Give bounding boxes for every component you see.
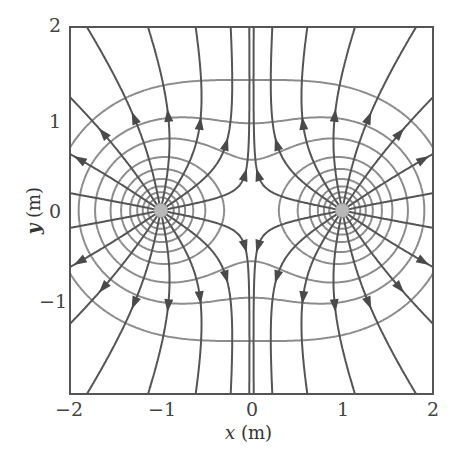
arrowhead-icon <box>362 112 371 126</box>
point-charge-1 <box>154 204 168 218</box>
arrowhead-icon <box>74 156 88 166</box>
y-tick-2: 2 <box>49 14 61 36</box>
x-label-unit: (m) <box>235 422 272 443</box>
y-tick-1: 1 <box>49 110 61 132</box>
y-label-unit: (m) <box>23 187 44 224</box>
arrowhead-icon <box>274 138 283 152</box>
arrowhead-icon <box>164 109 173 122</box>
field-lines <box>70 27 433 394</box>
arrowhead-icon <box>220 270 229 284</box>
arrowhead-icon <box>74 255 88 265</box>
arrowhead-icon <box>416 156 430 166</box>
arrowhead-icon <box>132 296 141 310</box>
arrowhead-icon <box>164 299 173 312</box>
arrowhead-icon <box>239 239 248 253</box>
x-tick-neg1: −1 <box>148 398 176 420</box>
point-charge-2 <box>335 204 349 218</box>
equipotential <box>143 192 361 229</box>
arrowhead-icon <box>362 296 371 310</box>
arrowhead-icon <box>239 168 248 182</box>
x-tick-neg2: −2 <box>55 398 83 420</box>
arrowhead-icon <box>220 138 229 152</box>
arrowhead-icon <box>416 255 430 265</box>
x-label-var: x <box>225 422 235 443</box>
equipotential <box>70 80 433 341</box>
x-axis-label: x (m) <box>225 422 272 443</box>
arrowhead-icon <box>274 270 283 284</box>
arrowhead-icon <box>256 168 265 182</box>
equipotential <box>95 139 408 283</box>
x-tick-2: 2 <box>427 398 439 420</box>
equipotential-lines <box>70 80 433 341</box>
y-tick-0: 0 <box>49 200 61 222</box>
y-tick-neg1: −1 <box>39 290 67 312</box>
y-axis-label: y (m) <box>23 187 44 234</box>
arrowhead-icon <box>132 112 141 126</box>
y-label-var: y <box>23 224 44 234</box>
arrowhead-icon <box>256 239 265 253</box>
arrowhead-icon <box>330 299 339 312</box>
x-tick-0: 0 <box>246 398 258 420</box>
x-tick-1: 1 <box>337 398 349 420</box>
plot-frame <box>70 27 433 394</box>
arrowhead-icon <box>330 109 339 122</box>
